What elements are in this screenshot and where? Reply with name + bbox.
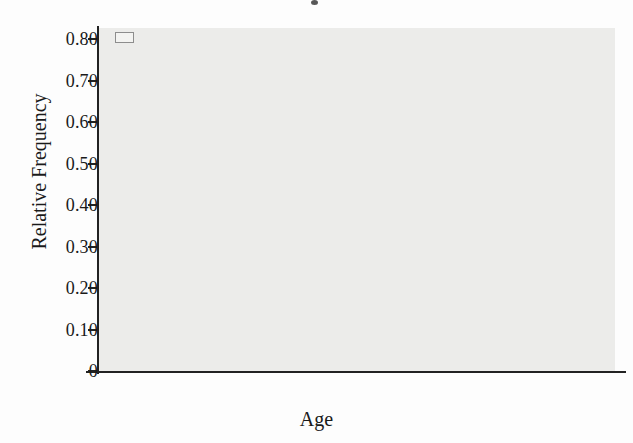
y-tick-label: 0.80: [40, 30, 98, 48]
y-axis-label: Relative Frequency: [28, 47, 51, 297]
plot-area: [98, 28, 615, 372]
y-tick-label: 0: [40, 362, 98, 380]
x-axis-label: Age: [0, 408, 633, 431]
bars-container: [98, 28, 615, 372]
legend: [115, 32, 134, 43]
y-tick-label-row: 0.80: [0, 30, 98, 48]
bar-chart-figure: 00.100.200.300.400.500.600.700.80 Relati…: [0, 0, 633, 443]
cropped-title-artifact: [311, 0, 318, 5]
y-tick-label: 0.10: [40, 321, 98, 339]
y-tick-label-row: 0: [0, 362, 98, 380]
x-axis-line: [86, 371, 626, 373]
y-tick-label-row: 0.10: [0, 321, 98, 339]
